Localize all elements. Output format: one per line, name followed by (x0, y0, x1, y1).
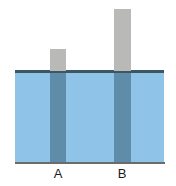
rod-a-submerged-segment (50, 71, 66, 163)
rod-a-label: A (48, 166, 68, 181)
water-surface-line (15, 70, 164, 73)
rod-b-emergent-segment (114, 9, 131, 71)
rod-b-submerged-segment (114, 71, 131, 163)
buoyancy-diagram: A B (0, 0, 176, 186)
water-body (15, 71, 164, 163)
tank-bottom-line (15, 162, 165, 164)
rod-b-label: B (112, 166, 132, 181)
rod-a-emergent-segment (50, 49, 66, 71)
